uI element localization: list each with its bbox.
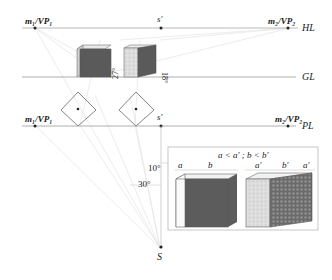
gl-label: GL xyxy=(302,71,315,82)
cube-left xyxy=(77,45,111,77)
pl-center-label: s′ xyxy=(157,112,164,122)
angle-10-label: 10° xyxy=(148,163,161,173)
s-prime-point xyxy=(160,27,163,30)
svg-text:a′: a′ xyxy=(255,160,263,170)
plan-square-left xyxy=(61,92,96,126)
horizon-line-group: m₁/VP₁ s′ m₂/VP₂ HL xyxy=(22,14,315,33)
station-label: S xyxy=(157,251,162,262)
cube-right xyxy=(124,45,156,77)
svg-text:a: a xyxy=(178,160,183,170)
perspective-diagram: m₁/VP₁ s′ m₂/VP₂ HL GL 27° 18° m₁/VP₁ s′ xyxy=(0,0,332,280)
vp1-point xyxy=(34,27,37,30)
inset-comparison: a < a′ ; b < b′ a b a′ b′ a′ xyxy=(168,147,318,230)
pl-label: PL xyxy=(301,120,314,131)
station-point xyxy=(159,245,162,248)
svg-text:b: b xyxy=(208,160,213,170)
pl-right-label: m₂/VP₂ xyxy=(275,114,302,124)
angle-30-label: 30° xyxy=(138,179,151,189)
hl-label: HL xyxy=(301,22,315,33)
angle-18-label: 18° xyxy=(160,72,169,83)
vp2-point xyxy=(287,27,290,30)
svg-text:a′: a′ xyxy=(303,160,311,170)
inset-caption: a < a′ ; b < b′ xyxy=(218,150,270,160)
pl-left-label: m₁/VP₁ xyxy=(25,114,52,124)
svg-text:b′: b′ xyxy=(282,160,290,170)
angle-27-label: 27° xyxy=(111,68,120,79)
hl-right-label: m₂/VP₂ xyxy=(268,16,295,26)
hl-center-label: s′ xyxy=(157,14,164,24)
hl-left-label: m₁/VP₁ xyxy=(25,16,52,26)
